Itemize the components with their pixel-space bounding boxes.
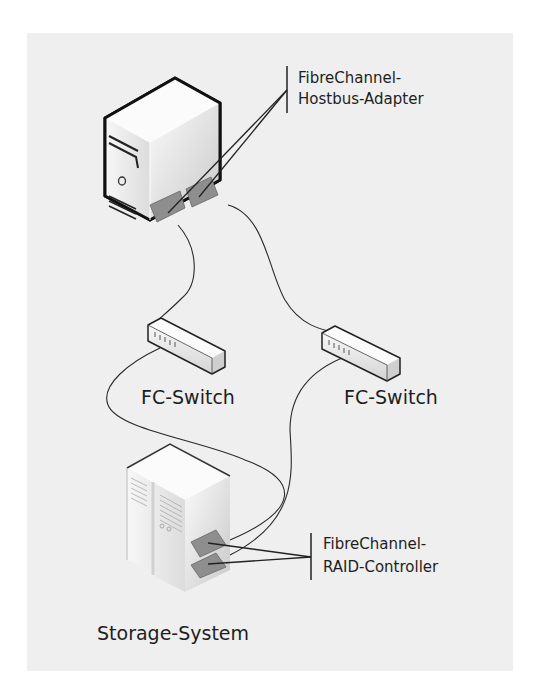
san-diagram: FibreChannel- Hostbus-Adapter FC-Switch [0, 0, 539, 686]
switch-left-icon [148, 318, 225, 374]
storage-label: Storage-System [97, 622, 249, 644]
server-icon [105, 78, 220, 222]
cable-hba1-to-switch-left [158, 225, 194, 320]
raid-label-line1: FibreChannel- [323, 535, 426, 553]
raid-label-line2: RAID-Controller [323, 558, 439, 576]
switch-right-icon [322, 326, 400, 381]
switch-left-label: FC-Switch [141, 386, 235, 408]
storage-system-icon [127, 444, 230, 592]
cable-hba2-to-switch-right [228, 205, 342, 334]
switch-right-label: FC-Switch [344, 386, 438, 408]
hba-label-line1: FibreChannel- [298, 69, 401, 87]
cable-switch-right-to-raid2 [230, 356, 347, 555]
hba-label-line2: Hostbus-Adapter [298, 90, 424, 108]
